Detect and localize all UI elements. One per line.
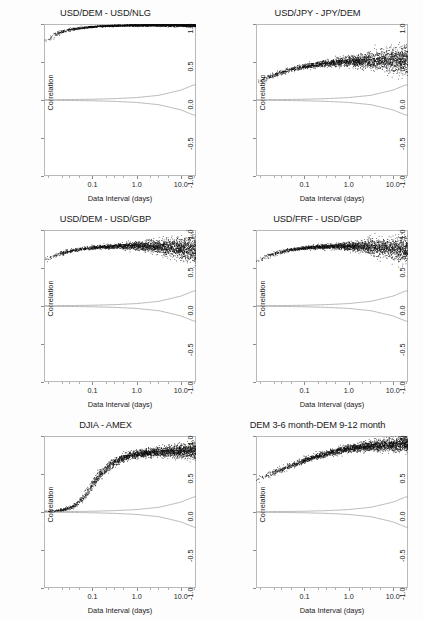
x-minor-tick [69, 588, 70, 590]
panel-3: USD/DEM - USD/GBP1.00.50.0-0.5-1.00.11.0… [0, 206, 211, 412]
panel-title: DEM 3-6 month-DEM 9-12 month [212, 420, 423, 430]
x-tick [137, 588, 138, 591]
x-tick-label: 0.1 [299, 386, 309, 395]
y-tick [41, 588, 44, 589]
plot-area: 1.00.50.0-0.5-1.00.11.010.0CorrelationDa… [44, 24, 196, 176]
x-minor-tick [48, 588, 49, 590]
x-minor-tick [106, 176, 107, 178]
x-tick [92, 588, 93, 591]
data-layer [44, 436, 196, 588]
y-tick [41, 382, 44, 383]
panel-title: USD/DEM - USD/GBP [0, 214, 211, 224]
x-minor-tick [168, 382, 169, 384]
x-minor-tick [406, 176, 407, 178]
x-minor-tick [48, 176, 49, 178]
x-minor-tick [69, 176, 70, 178]
x-minor-tick [69, 382, 70, 384]
x-axis-title: Data Interval (days) [44, 194, 196, 203]
x-minor-tick [326, 176, 327, 178]
x-tick [349, 588, 350, 591]
x-tick-label: 1.0 [132, 180, 142, 189]
plot-area: 1.00.50.0-0.5-1.00.11.010.0CorrelationDa… [256, 24, 408, 176]
x-minor-tick [62, 382, 63, 384]
x-minor-tick [326, 588, 327, 590]
x-minor-tick [114, 588, 115, 590]
x-tick-label: 10.0 [386, 386, 400, 395]
x-minor-tick [79, 176, 80, 178]
x-tick [393, 382, 394, 385]
x-minor-tick [380, 382, 381, 384]
x-minor-tick [380, 588, 381, 590]
panel-2: USD/JPY - JPY/DEM1.00.50.0-0.5-1.00.11.0… [212, 0, 423, 206]
x-minor-tick [79, 588, 80, 590]
x-minor-tick [318, 382, 319, 384]
x-tick-label: 10.0 [174, 180, 188, 189]
x-tick-label: 10.0 [174, 592, 188, 601]
x-tick-label: 10.0 [174, 386, 188, 395]
x-minor-tick [362, 382, 363, 384]
upper-confidence-band [256, 497, 408, 512]
x-axis-title: Data Interval (days) [44, 606, 196, 615]
x-minor-tick [62, 588, 63, 590]
x-tick-label: 0.1 [87, 592, 97, 601]
x-minor-tick [194, 176, 195, 178]
x-minor-tick [123, 176, 124, 178]
x-minor-tick [318, 588, 319, 590]
x-minor-tick [260, 176, 261, 178]
x-minor-tick [48, 382, 49, 384]
x-minor-tick [291, 588, 292, 590]
x-minor-tick [335, 176, 336, 178]
x-minor-tick [318, 176, 319, 178]
plot-area: 1.00.50.0-0.5-1.00.11.010.0CorrelationDa… [256, 230, 408, 382]
x-minor-tick [274, 382, 275, 384]
x-minor-tick [123, 382, 124, 384]
x-minor-tick [370, 588, 371, 590]
panel-6: DEM 3-6 month-DEM 9-12 month1.00.50.0-0.… [212, 412, 423, 618]
x-axis-title: Data Interval (days) [256, 194, 408, 203]
figure-canvas: USD/DEM - USD/NLG1.00.50.0-0.5-1.00.11.0… [0, 0, 423, 619]
x-minor-tick [326, 382, 327, 384]
x-minor-tick [370, 382, 371, 384]
x-minor-tick [281, 382, 282, 384]
x-minor-tick [194, 588, 195, 590]
x-tick [181, 588, 182, 591]
x-minor-tick [335, 382, 336, 384]
x-tick [92, 176, 93, 179]
upper-confidence-band [44, 291, 196, 306]
x-tick-label: 1.0 [344, 180, 354, 189]
panel-4: USD/FRF - USD/GBP1.00.50.0-0.5-1.00.11.0… [212, 206, 423, 412]
lower-confidence-band [44, 100, 196, 115]
panel-title: USD/FRF - USD/GBP [212, 214, 423, 224]
x-tick [92, 382, 93, 385]
x-minor-tick [62, 176, 63, 178]
x-tick [137, 176, 138, 179]
x-minor-tick [291, 176, 292, 178]
x-minor-tick [406, 588, 407, 590]
plot-area: 1.00.50.0-0.5-1.00.11.010.0CorrelationDa… [44, 436, 196, 588]
x-minor-tick [150, 588, 151, 590]
x-minor-tick [291, 382, 292, 384]
x-minor-tick [274, 176, 275, 178]
plot-area: 1.00.50.0-0.5-1.00.11.010.0CorrelationDa… [44, 230, 196, 382]
x-tick [181, 382, 182, 385]
upper-confidence-band [44, 85, 196, 100]
lower-confidence-band [256, 306, 408, 321]
x-minor-tick [79, 382, 80, 384]
x-tick [349, 176, 350, 179]
x-minor-tick [106, 588, 107, 590]
x-tick [304, 176, 305, 179]
panel-5: DJIA - AMEX1.00.50.0-0.5-1.00.11.010.0Co… [0, 412, 211, 618]
lower-confidence-band [44, 306, 196, 321]
upper-confidence-band [256, 85, 408, 100]
y-tick [253, 176, 256, 177]
x-tick-label: 1.0 [344, 386, 354, 395]
upper-confidence-band [256, 291, 408, 306]
x-minor-tick [106, 382, 107, 384]
x-axis-title: Data Interval (days) [44, 400, 196, 409]
data-layer [44, 24, 196, 176]
x-tick-label: 1.0 [132, 386, 142, 395]
x-minor-tick [406, 382, 407, 384]
x-tick-label: 0.1 [87, 180, 97, 189]
x-minor-tick [362, 588, 363, 590]
x-minor-tick [274, 588, 275, 590]
